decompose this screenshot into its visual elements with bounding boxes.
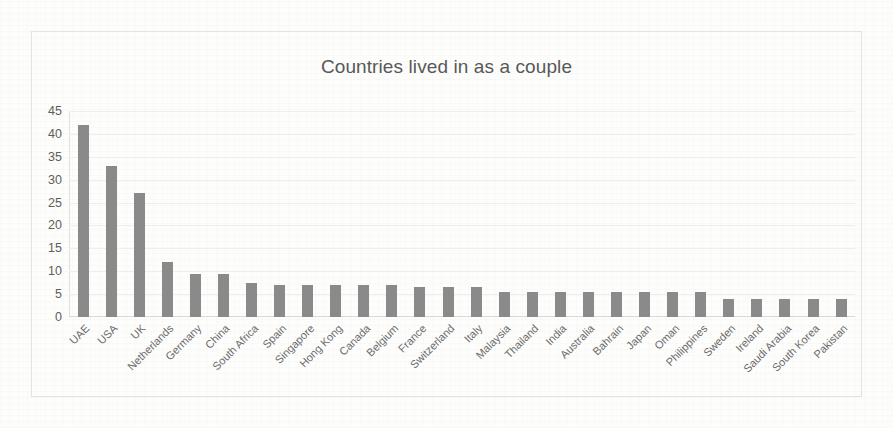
bar[interactable] [527,292,538,317]
y-tick-label: 40 [48,127,62,141]
bar-slot [406,111,434,317]
bar-slot [546,111,574,317]
y-tick-label: 35 [48,150,62,164]
y-tick-label: 25 [48,196,62,210]
bar[interactable] [190,274,201,317]
x-label-slot: Sweden [715,319,743,419]
bar[interactable] [751,299,762,317]
x-tick-label: Italy [462,322,485,345]
x-label-slot: Australia [574,319,602,419]
plot-area: 454035302520151050 [69,111,855,317]
bar[interactable] [78,125,89,317]
x-label-slot: Germany [181,319,209,419]
bar[interactable] [583,292,594,317]
bar[interactable] [218,274,229,317]
x-label-slot: USA [97,319,125,419]
chart-title: Countries lived in as a couple [32,56,861,78]
bar[interactable] [808,299,819,317]
bar[interactable] [555,292,566,317]
x-label-slot: Thailand [518,319,546,419]
bar-slot [378,111,406,317]
bar-slot [827,111,855,317]
bar-slot [687,111,715,317]
bar-slot [771,111,799,317]
bar[interactable] [723,299,734,317]
bar-slot [69,111,97,317]
x-label-slot: South Korea [799,319,827,419]
bar-slot [574,111,602,317]
bar-slot [209,111,237,317]
y-tick-label: 45 [48,104,62,118]
x-label-slot: Belgium [378,319,406,419]
x-label-slot: Malaysia [490,319,518,419]
y-tick-label: 0 [55,310,62,324]
bar-slot [631,111,659,317]
bar[interactable] [246,283,257,317]
y-tick-label: 30 [48,173,62,187]
bar-slot [266,111,294,317]
bar-slot [462,111,490,317]
bar[interactable] [443,287,454,317]
bar-slot [518,111,546,317]
bar[interactable] [134,193,145,317]
x-label-slot: France [406,319,434,419]
bar-slot [350,111,378,317]
x-axis-tick-labels: UAEUSAUKNetherlandsGermanyChinaSouth Afr… [69,319,855,419]
y-tick-label: 20 [48,218,62,232]
bar[interactable] [358,285,369,317]
bar[interactable] [471,287,482,317]
bar[interactable] [106,166,117,317]
x-label-slot: China [209,319,237,419]
bar-slot [659,111,687,317]
bar[interactable] [274,285,285,317]
bar-slot [715,111,743,317]
bar-slot [322,111,350,317]
bar[interactable] [162,262,173,317]
bar-slot [153,111,181,317]
bar[interactable] [499,292,510,317]
x-label-slot: Switzerland [434,319,462,419]
bar[interactable] [836,299,847,317]
bar-slot [434,111,462,317]
bar-series [69,111,855,317]
x-label-slot: Netherlands [153,319,181,419]
x-label-slot: Japan [631,319,659,419]
bar[interactable] [302,285,313,317]
bar-slot [294,111,322,317]
x-label-slot: UAE [69,319,97,419]
x-label-slot: India [546,319,574,419]
bar-slot [97,111,125,317]
bar[interactable] [611,292,622,317]
bar[interactable] [330,285,341,317]
x-label-slot: Philippines [687,319,715,419]
x-label-slot: Oman [659,319,687,419]
x-label-slot: Singapore [294,319,322,419]
bar[interactable] [386,285,397,317]
x-label-slot: Spain [266,319,294,419]
bar[interactable] [414,287,425,317]
bar[interactable] [667,292,678,317]
bar[interactable] [639,292,650,317]
y-tick-label: 15 [48,241,62,255]
y-tick-label: 10 [48,264,62,278]
x-label-slot: South Africa [237,319,265,419]
bar-slot [181,111,209,317]
x-label-slot: Hong Kong [322,319,350,419]
x-tick-label: USA [95,322,119,346]
bar-slot [237,111,265,317]
bar-slot [799,111,827,317]
page-background: Countries lived in as a couple 454035302… [0,0,893,428]
x-tick-label: UK [128,322,147,341]
bar[interactable] [695,292,706,317]
bar-slot [490,111,518,317]
x-tick-label: UAE [67,322,91,346]
bar[interactable] [779,299,790,317]
x-label-slot: Canada [350,319,378,419]
chart-container: Countries lived in as a couple 454035302… [31,31,862,397]
y-tick-label: 5 [55,287,62,301]
bar-slot [125,111,153,317]
x-label-slot: Bahrain [602,319,630,419]
x-label-slot: Italy [462,319,490,419]
bar-slot [602,111,630,317]
x-label-slot: Pakistan [827,319,855,419]
